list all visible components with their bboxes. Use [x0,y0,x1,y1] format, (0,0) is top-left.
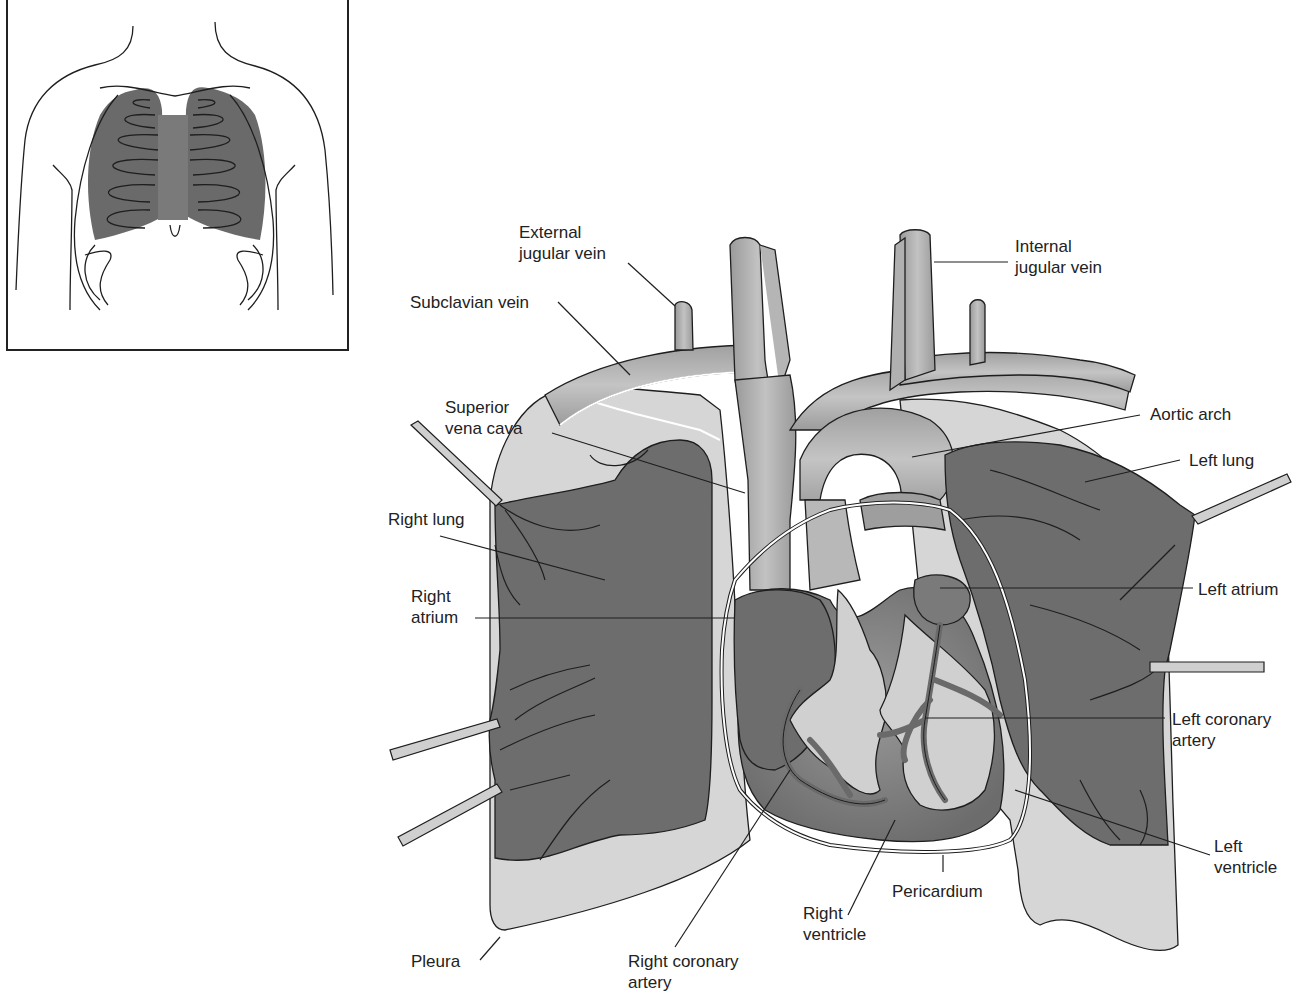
label-aortic-arch: Aortic arch [1150,404,1231,425]
label-internal-jugular-vein: Internal jugular vein [1015,236,1102,278]
right-lung-shape [489,440,712,860]
inset-frame [6,0,349,351]
heart-shape [734,575,1004,842]
label-left-coronary-artery: Left coronary artery [1172,709,1271,751]
label-right-coronary-artery: Right coronary artery [628,951,739,993]
label-left-ventricle: Left ventricle [1214,836,1277,878]
label-right-atrium: Right atrium [411,586,458,628]
label-pleura: Pleura [411,951,460,972]
label-subclavian-vein: Subclavian vein [410,292,529,313]
label-external-jugular-vein: External jugular vein [519,222,606,264]
label-left-atrium: Left atrium [1198,579,1278,600]
label-right-ventricle: Right ventricle [803,903,866,945]
label-right-lung: Right lung [388,509,465,530]
label-superior-vena-cava: Superior vena cava [445,397,523,439]
label-pericardium: Pericardium [892,881,983,902]
label-left-lung: Left lung [1189,450,1254,471]
